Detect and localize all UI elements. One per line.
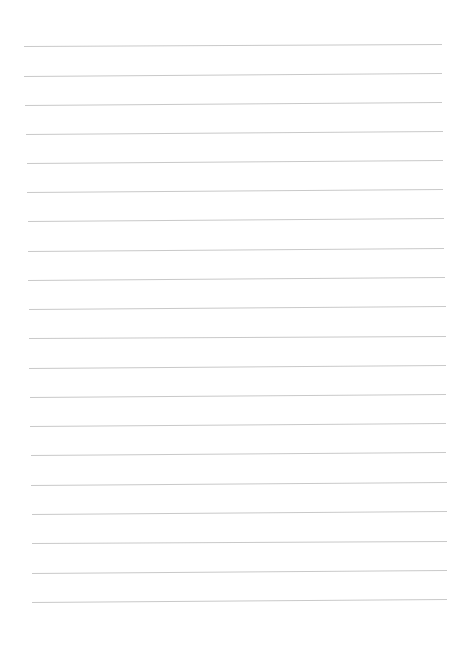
ruled-line-5 — [27, 161, 443, 164]
ruled-line-11 — [29, 337, 446, 339]
ruled-line-15 — [31, 453, 446, 456]
ruled-line-16 — [31, 483, 447, 486]
ruled-line-14 — [30, 424, 446, 427]
lined-paper-page — [0, 0, 459, 646]
ruled-line-8 — [28, 249, 444, 252]
ruled-line-7 — [28, 219, 444, 222]
ruled-line-1 — [24, 45, 442, 47]
ruled-line-17 — [32, 512, 447, 515]
ruled-line-10 — [29, 307, 446, 310]
ruled-line-19 — [32, 571, 447, 574]
ruled-line-12 — [29, 366, 446, 369]
ruled-line-6 — [27, 190, 443, 193]
ruled-line-13 — [30, 395, 446, 398]
ruled-line-18 — [32, 542, 447, 544]
ruled-line-20 — [32, 600, 447, 603]
ruled-line-2 — [24, 74, 442, 77]
ruled-line-3 — [25, 103, 442, 106]
ruled-line-4 — [26, 132, 443, 135]
ruled-line-9 — [28, 278, 445, 281]
ruled-lines — [0, 0, 459, 646]
